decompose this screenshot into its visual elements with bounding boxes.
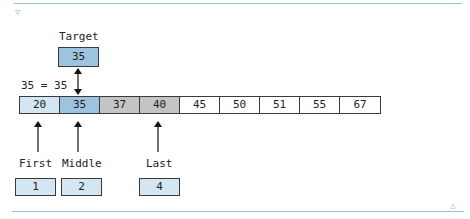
bottom-rule [12, 211, 464, 212]
first-label: First [19, 157, 52, 170]
expand-icon[interactable]: △ [450, 201, 455, 210]
middle-label: Middle [62, 157, 102, 170]
last-label: Last [146, 157, 173, 170]
middle-index-box: 2 [61, 178, 102, 196]
first-index-box: 1 [15, 178, 56, 196]
last-index-box: 4 [139, 178, 180, 196]
